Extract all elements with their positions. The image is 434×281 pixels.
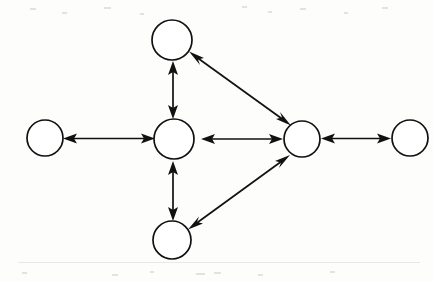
arrowhead-downright: [276, 112, 291, 126]
edge-center-top[interactable]: [168, 61, 178, 119]
diagram-canvas: [0, 0, 434, 281]
node-left[interactable]: [27, 120, 63, 156]
node-circle[interactable]: [27, 120, 63, 156]
edge-top-right[interactable]: [189, 52, 291, 126]
node-circle[interactable]: [153, 221, 191, 259]
scan-artifacts: [18, 6, 420, 276]
node-right[interactable]: [284, 121, 320, 157]
node-circle[interactable]: [284, 121, 320, 157]
node-bottom[interactable]: [153, 221, 191, 259]
edge-right-farright[interactable]: [321, 134, 391, 144]
node-circle[interactable]: [154, 119, 194, 159]
node-top[interactable]: [152, 20, 192, 60]
arrowhead-upleft: [189, 52, 204, 66]
node-center[interactable]: [154, 119, 194, 159]
arrowhead-upright: [275, 155, 290, 168]
edge-bottom-right[interactable]: [188, 155, 290, 230]
edge-center-right[interactable]: [201, 134, 283, 144]
edges-layer: [63, 52, 391, 230]
graph-svg: [0, 0, 434, 281]
node-circle[interactable]: [392, 120, 428, 156]
edge-center-bottom[interactable]: [168, 161, 178, 221]
edge-left-center[interactable]: [63, 134, 155, 144]
arrowhead-downleft: [188, 217, 203, 230]
node-far-right[interactable]: [392, 120, 428, 156]
node-circle[interactable]: [152, 20, 192, 60]
